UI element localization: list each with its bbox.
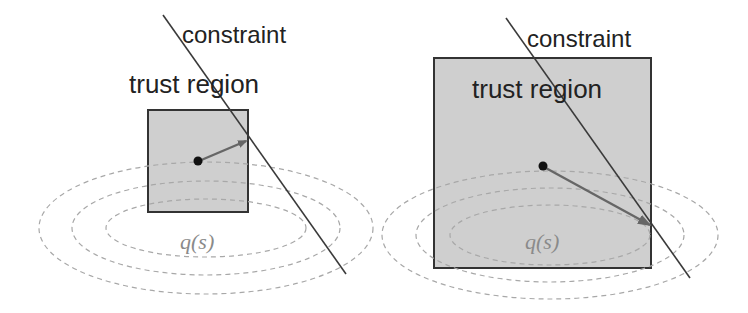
panel-large-trust-region: constraint trust region q(s) <box>382 18 718 299</box>
current-point <box>539 162 548 171</box>
trust-region-label: trust region <box>472 74 602 104</box>
panel-small-trust-region: constraint trust region q(s) <box>39 15 373 294</box>
constraint-label: constraint <box>182 21 286 48</box>
trust-region-label: trust region <box>129 69 259 99</box>
model-label: q(s) <box>525 229 559 254</box>
current-point <box>194 157 203 166</box>
constraint-label: constraint <box>527 25 631 52</box>
model-label: q(s) <box>180 229 214 254</box>
trust-region-diagram: constraint trust region q(s) constraint … <box>0 0 748 313</box>
